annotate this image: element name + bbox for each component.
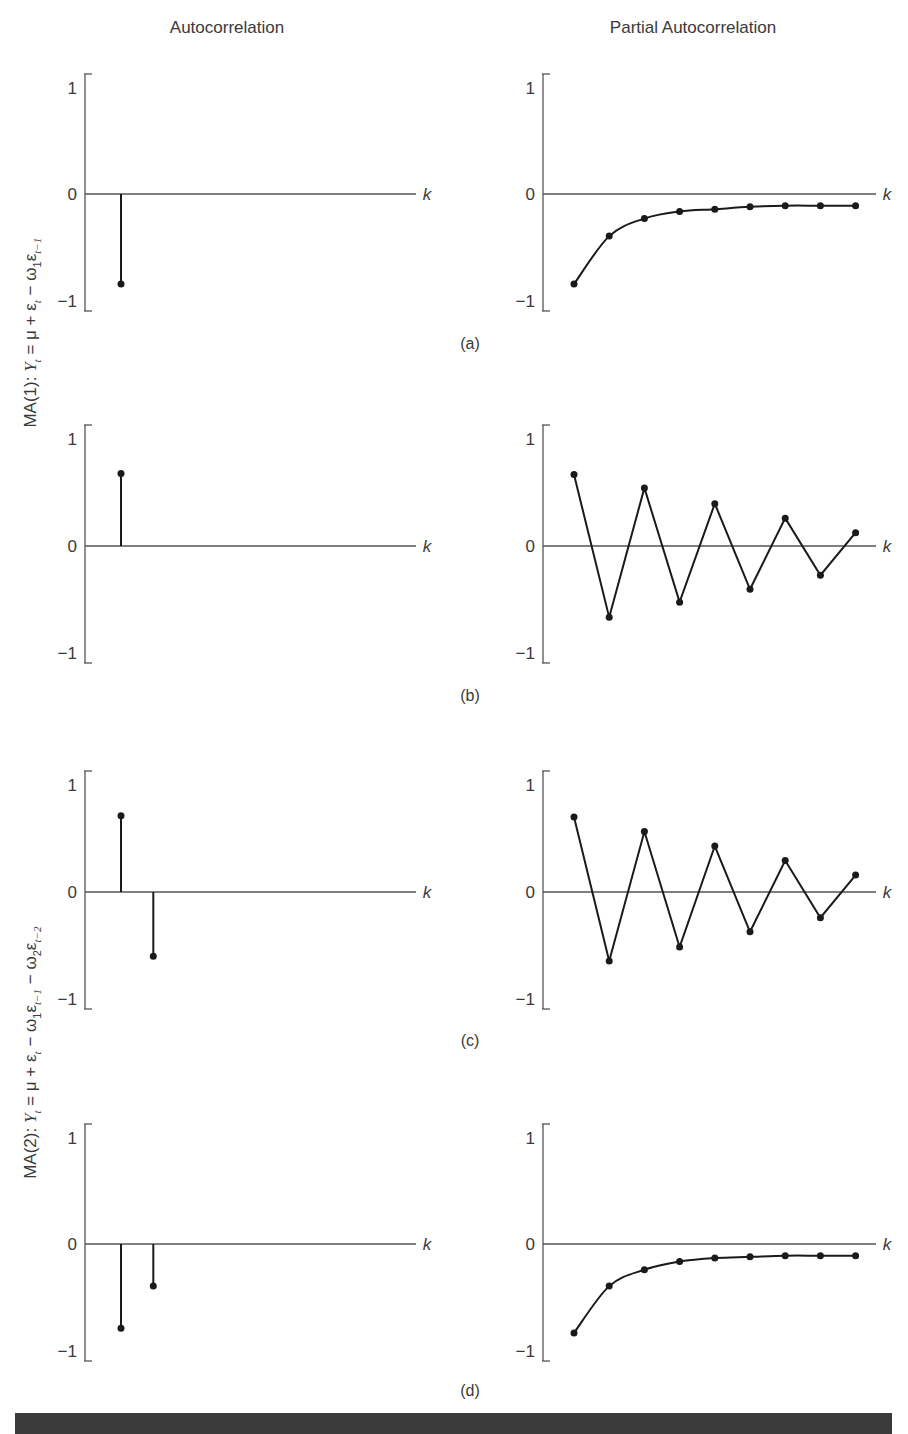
- y-label-0-a-right: 0: [526, 185, 535, 204]
- y-label-neg1-a-left: −1: [58, 292, 77, 311]
- pacf-point-c-right-7: [782, 857, 789, 864]
- ma1-y-sub: t: [31, 359, 43, 362]
- bottom-dark-bar: [15, 1413, 892, 1434]
- y-label-0-b-left: 0: [68, 537, 77, 556]
- y-label-0-b-right: 0: [526, 537, 535, 556]
- ma2-eps2-sub: t−1: [31, 989, 43, 1005]
- pacf-point-d-right-6: [747, 1253, 754, 1260]
- ma2-equation-label: MA(2): Yt = μ + εt − ω1εt−1 − ω2εt−2: [21, 853, 42, 1253]
- pacf-point-b-right-6: [747, 586, 754, 593]
- acf-pacf-plots: 10−1k10−1k10−1k10−1k10−1k10−1k10−1k10−1k: [0, 0, 908, 1434]
- pacf-point-c-right-6: [747, 928, 754, 935]
- y-label-1-c-left: 1: [68, 776, 77, 795]
- pacf-point-c-right-1: [571, 813, 578, 820]
- ma1-omega-sub: 1: [31, 261, 43, 267]
- y-label-1-d-right: 1: [526, 1129, 535, 1148]
- y-label-0-c-right: 0: [526, 883, 535, 902]
- y-label-1-a-left: 1: [68, 79, 77, 98]
- ma2-eq: = μ + ε: [21, 1054, 40, 1110]
- acf-point-d-left-1: [118, 1325, 125, 1332]
- x-axis-k-label-d-left: k: [423, 1235, 433, 1254]
- y-label-neg1-a-right: −1: [516, 292, 535, 311]
- ma2-y: Y: [21, 1114, 40, 1123]
- y-label-1-c-right: 1: [526, 776, 535, 795]
- ma2-omega2-sub: 2: [31, 950, 43, 956]
- pacf-point-b-right-9: [852, 529, 859, 536]
- acf-point-a-left-1: [118, 281, 125, 288]
- pacf-point-b-right-8: [817, 572, 824, 579]
- ma1-y: Y: [21, 362, 40, 371]
- ma2-omega1-sub: 1: [31, 1013, 43, 1019]
- ma1-omega: − ω: [21, 267, 40, 300]
- pacf-point-c-right-9: [852, 872, 859, 879]
- panel-label-b: (b): [460, 687, 480, 705]
- y-label-neg1-b-left: −1: [58, 644, 77, 663]
- x-axis-k-label-c-right: k: [883, 883, 893, 902]
- y-label-0-d-left: 0: [68, 1235, 77, 1254]
- ma2-eps-sub: t: [31, 1051, 43, 1054]
- pacf-point-a-right-6: [747, 203, 754, 210]
- pacf-point-c-right-2: [606, 958, 613, 965]
- pacf-point-b-right-2: [606, 614, 613, 621]
- acf-point-c-left-1: [118, 812, 125, 819]
- pacf-point-d-right-5: [711, 1255, 718, 1262]
- y-label-1-d-left: 1: [68, 1129, 77, 1148]
- pacf-point-a-right-1: [571, 281, 578, 288]
- pacf-point-d-right-4: [676, 1258, 683, 1265]
- pacf-point-c-right-3: [641, 828, 648, 835]
- pacf-point-a-right-2: [606, 233, 613, 240]
- y-label-0-a-left: 0: [68, 185, 77, 204]
- acf-point-d-left-2: [150, 1283, 157, 1290]
- pacf-point-b-right-3: [641, 484, 648, 491]
- pacf-point-a-right-3: [641, 215, 648, 222]
- pacf-point-c-right-4: [676, 943, 683, 950]
- ma1-eps-sub: t: [31, 300, 43, 303]
- y-label-neg1-d-left: −1: [58, 1342, 77, 1361]
- ma2-eps3-sub: t−2: [31, 927, 43, 943]
- y-label-1-b-left: 1: [68, 430, 77, 449]
- x-axis-k-label-a-left: k: [423, 185, 433, 204]
- pacf-point-a-right-9: [852, 202, 859, 209]
- pacf-point-d-right-1: [571, 1329, 578, 1336]
- ma1-prefix: MA(1):: [21, 372, 40, 428]
- ma2-omega1: − ω: [21, 1019, 40, 1052]
- y-label-neg1-c-left: −1: [58, 990, 77, 1009]
- ma2-omega2: − ω: [21, 956, 40, 989]
- y-label-1-b-right: 1: [526, 430, 535, 449]
- pacf-point-c-right-8: [817, 914, 824, 921]
- ma2-prefix: MA(2):: [21, 1123, 40, 1179]
- pacf-point-d-right-9: [852, 1252, 859, 1259]
- acf-point-b-left-1: [118, 470, 125, 477]
- ma1-eps2-sub: t−1: [31, 238, 43, 254]
- x-axis-k-label-b-right: k: [883, 537, 893, 556]
- pacf-line-c-right: [574, 817, 856, 961]
- ma2-y-sub: t: [31, 1111, 43, 1114]
- pacf-line-a-right: [574, 206, 856, 284]
- panel-label-a: (a): [460, 335, 480, 353]
- acf-point-c-left-2: [150, 953, 157, 960]
- ma2-eps3: ε: [21, 943, 40, 951]
- y-label-neg1-d-right: −1: [516, 1342, 535, 1361]
- pacf-point-a-right-4: [676, 208, 683, 215]
- pacf-point-d-right-7: [782, 1252, 789, 1259]
- pacf-point-c-right-5: [711, 843, 718, 850]
- pacf-point-d-right-3: [641, 1266, 648, 1273]
- x-axis-k-label-a-right: k: [883, 185, 893, 204]
- pacf-line-d-right: [574, 1256, 856, 1333]
- x-axis-k-label-b-left: k: [423, 537, 433, 556]
- pacf-point-a-right-5: [711, 206, 718, 213]
- pacf-point-a-right-7: [782, 202, 789, 209]
- y-label-0-c-left: 0: [68, 883, 77, 902]
- ma1-equation-label: MA(1): Yt = μ + εt − ω1εt−1: [21, 203, 42, 463]
- ma1-eps2: ε: [21, 254, 40, 262]
- pacf-point-b-right-5: [711, 500, 718, 507]
- ma1-eq: = μ + ε: [21, 303, 40, 359]
- y-label-neg1-b-right: −1: [516, 644, 535, 663]
- pacf-point-d-right-2: [606, 1283, 613, 1290]
- pacf-point-d-right-8: [817, 1252, 824, 1259]
- y-label-neg1-c-right: −1: [516, 990, 535, 1009]
- panel-label-d: (d): [460, 1382, 480, 1400]
- pacf-point-b-right-4: [676, 599, 683, 606]
- ma2-eps2: ε: [21, 1005, 40, 1013]
- pacf-point-b-right-1: [571, 471, 578, 478]
